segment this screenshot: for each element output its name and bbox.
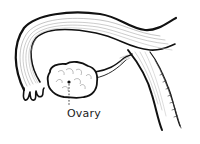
- ovary: [48, 62, 98, 98]
- ovary-label: Ovary: [67, 108, 101, 120]
- anatomy-illustration: [0, 0, 200, 144]
- ovary-diagram: Ovary: [0, 0, 200, 144]
- uterus-wall: [128, 50, 181, 130]
- ovarian-ligament: [95, 54, 132, 78]
- fimbriae: [23, 88, 44, 100]
